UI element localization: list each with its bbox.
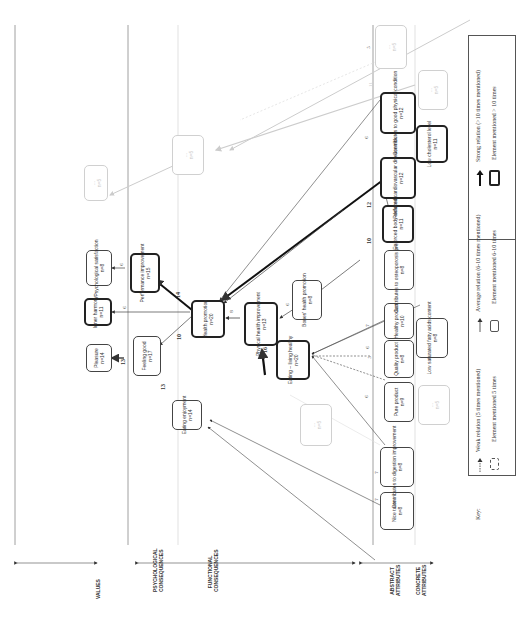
node-faded-4: ...n=5	[418, 385, 450, 425]
level-label-psychological: PSYCHOLOGICAL CONSEQUENCES	[152, 552, 164, 592]
node-health-promotion: Health promotionn=20	[191, 300, 225, 338]
node-psychological-satisfaction: Psychological satisfactionn=8	[86, 250, 112, 286]
edge-label: 5	[367, 356, 372, 359]
edge-label: 6	[364, 136, 369, 139]
edge-label: 6	[122, 306, 127, 309]
legend-average-element-icon	[490, 320, 499, 332]
edge-label: 14	[175, 292, 181, 298]
node-pleasure: Pleasuren=14	[86, 344, 112, 372]
means-end-chain-diagram: VALUES PSYCHOLOGICAL CONSEQUENCES FUNCTI…	[0, 0, 525, 627]
legend-weak-element-icon	[490, 458, 499, 470]
node-physical-health-improvement: Physical health improvementn=13	[244, 302, 278, 346]
node-feeling-good: Feeling goodn=17	[133, 336, 161, 376]
node-low-cholesterol-level: Low cholesterol leveln=11	[416, 125, 448, 163]
node-eating-enjoyment: Eating enjoymentn=14	[172, 400, 202, 430]
edge-label: 6	[365, 346, 370, 349]
legend-key-label: Key:	[475, 508, 481, 520]
edge-label: 13	[160, 384, 166, 390]
node-eating-living-healthy: Eating – living healthyn=20	[276, 340, 310, 380]
node-good-physical-condition: Contributes to good physical conditionn=…	[380, 92, 416, 134]
edge-label: 6	[285, 303, 290, 306]
node-inner-harmony: Inner harmonyn=11	[84, 298, 112, 326]
node-performance-improvement: Performance improvementn=15	[130, 253, 160, 293]
legend-weak-element: Element mentioned 5 times	[491, 376, 497, 442]
edge-label: 10	[366, 238, 372, 244]
legend-strong-element-icon	[489, 170, 500, 186]
edge-label: 7	[374, 471, 379, 474]
legend-weak-arrow-icon	[476, 458, 484, 472]
legend-average-relation: Average relation (6-10 times mentioned)	[475, 214, 481, 312]
edge-label: 12	[366, 202, 372, 208]
node-osteoporosis-prevention: Contributes to osteoporosis preventionn=…	[384, 250, 414, 290]
node-low-saturated-fatty-acids: Low saturated fatty acids contentn=8	[416, 318, 448, 358]
legend-strong-arrow-icon	[476, 170, 484, 186]
level-label-concrete: CONCRETE ATTRIBUTES	[415, 566, 427, 596]
level-label-functional: FUNCTIONAL CONSEQUENCES	[207, 552, 219, 592]
edge-label: 10	[176, 334, 182, 340]
node-quality-product: Quality productn=8	[384, 340, 414, 378]
legend-average-element: Element mentioned 6-10 times	[491, 230, 497, 304]
node-faded-2: ...n=5	[172, 135, 204, 175]
edge-label: 11	[368, 82, 373, 87]
edge-label: 5	[366, 46, 371, 49]
edge-label: 6	[364, 395, 369, 398]
edge-label: 13	[120, 359, 126, 365]
edge-label: 8	[229, 310, 234, 313]
legend-strong-element: Element mentioned > 10 times	[491, 86, 497, 160]
node-reduced-cardiovascular-risk: Reduced cardiovascular disease riskn=12	[380, 157, 416, 199]
node-faded-3: ...n=5	[300, 404, 332, 446]
legend-strong-relation: Strong relation (>10 times mentioned)	[475, 70, 481, 162]
edge-label: 6	[119, 263, 124, 266]
level-label-values: VALUES	[95, 579, 101, 599]
node-bones-health-promotion: Bones' health promotionn=8	[292, 280, 322, 320]
legend-weak-relation: Weak relation (5 times mentioned)	[475, 369, 481, 452]
edge-label: 7	[365, 324, 370, 327]
node-pure-product: Pure productn=9	[384, 382, 414, 422]
node-faded-5: ...n=5	[418, 70, 448, 110]
edge-label: 16	[262, 347, 268, 353]
node-faded-1: ...n=5	[84, 165, 108, 201]
node-faded-6: ...n=5	[375, 25, 407, 69]
legend-average-arrow-icon	[476, 318, 484, 332]
node-digestion-improvement: Contributes to digestion improvementn=8	[380, 447, 414, 487]
edge-label: 7	[374, 498, 379, 501]
level-label-abstract: ABSTRACT ATTRIBUTES	[389, 566, 401, 596]
